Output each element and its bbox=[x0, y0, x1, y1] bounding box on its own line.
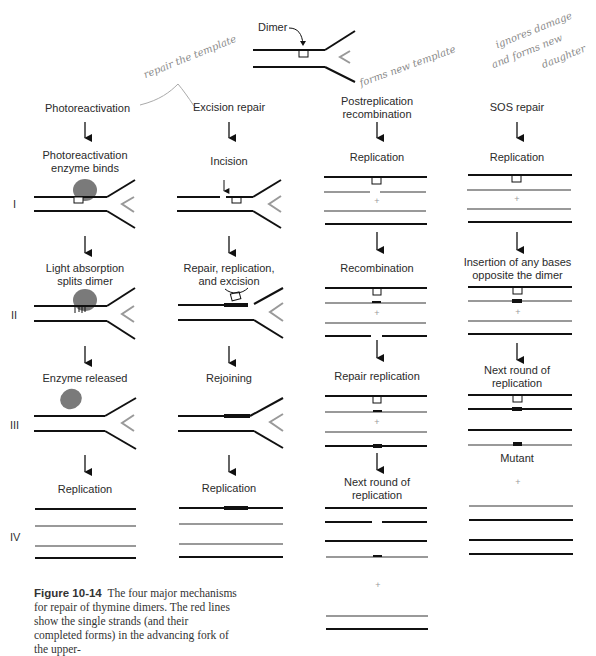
step-label: Replication bbox=[467, 151, 567, 164]
step-label: Insertion of any bases bbox=[460, 256, 575, 269]
dimer-fork-top bbox=[253, 28, 355, 82]
step-label: Enzyme released bbox=[35, 372, 135, 385]
step-label: Replication bbox=[35, 483, 135, 496]
step-label: Next round of bbox=[327, 476, 427, 489]
excision-step-2-fork bbox=[178, 288, 283, 338]
step-label: splits dimer bbox=[35, 275, 135, 288]
svg-text:+: + bbox=[514, 194, 519, 204]
step-label: Recombination bbox=[327, 262, 427, 275]
svg-text:+: + bbox=[515, 477, 520, 487]
step-label: Next round of bbox=[467, 364, 567, 377]
step-label: Replication bbox=[179, 482, 279, 495]
svg-text:+: + bbox=[374, 196, 379, 206]
postreplication-step-1-strands: + bbox=[324, 177, 427, 224]
row-label-iii: III bbox=[10, 419, 19, 431]
dimer-label: Dimer bbox=[258, 21, 287, 34]
step-label: Repair, replication, bbox=[174, 262, 284, 275]
excision-step-1-fork bbox=[177, 180, 281, 228]
excision-step-3-fork bbox=[178, 398, 283, 448]
step-label-mutant: Mutant bbox=[467, 452, 567, 465]
figure-label: Figure 10-14 bbox=[34, 587, 102, 599]
sos-step-1-strands: + bbox=[467, 175, 572, 222]
step-label: Repair replication bbox=[322, 370, 432, 383]
row-label-iv: IV bbox=[10, 531, 20, 543]
excision-step-4-strands bbox=[179, 508, 283, 557]
svg-text:+: + bbox=[515, 307, 520, 317]
step-label: Rejoining bbox=[179, 372, 279, 385]
photoreactivation-step-3-fork bbox=[34, 385, 136, 449]
sos-step-4-strands: + bbox=[469, 477, 573, 554]
step-label: Photoreactivation bbox=[35, 149, 135, 162]
column-title-photoreactivation: Photoreactivation bbox=[45, 102, 125, 115]
step-label: Incision bbox=[179, 155, 279, 168]
photoreactivation-step-1-fork bbox=[34, 179, 135, 228]
column-title-sos-repair: SOS repair bbox=[477, 101, 557, 114]
svg-text:+: + bbox=[374, 308, 379, 318]
row-label-ii: II bbox=[11, 309, 17, 321]
column-title-postreplication-1: Postreplication bbox=[332, 95, 422, 108]
svg-text:+: + bbox=[375, 580, 380, 590]
step-label: and excision bbox=[174, 275, 284, 288]
photoreactivation-step-4-strands bbox=[35, 509, 136, 558]
postreplication-step-2-strands: + bbox=[325, 288, 427, 336]
postreplication-step-4-strands: + bbox=[325, 508, 428, 629]
column-title-postreplication-2: recombination bbox=[332, 108, 422, 121]
photoreactivation-step-2-fork bbox=[34, 288, 135, 339]
step-label: Light absorption bbox=[35, 262, 135, 275]
step-label: opposite the dimer bbox=[460, 269, 575, 282]
svg-text:+: + bbox=[374, 417, 379, 427]
step-label: enzyme binds bbox=[35, 162, 135, 175]
step-label: replication bbox=[327, 489, 427, 502]
figure-caption: Figure 10-14 The four major mechanisms f… bbox=[34, 586, 239, 656]
sos-step-2-strands: + bbox=[468, 287, 572, 334]
postreplication-step-3-strands: + bbox=[325, 396, 427, 446]
column-title-excision-repair: Excision repair bbox=[189, 101, 269, 114]
step-label: Replication bbox=[327, 151, 427, 164]
sos-step-3-strands bbox=[468, 395, 572, 445]
row-label-i: I bbox=[13, 198, 16, 210]
step-label: replication bbox=[467, 377, 567, 390]
